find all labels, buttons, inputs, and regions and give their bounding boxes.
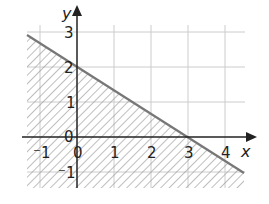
- y-tick-label: ⁻1: [58, 164, 75, 182]
- y-axis-label: y: [61, 4, 72, 23]
- x-tick-label: 1: [110, 144, 120, 162]
- x-axis-arrow-icon: [246, 132, 257, 142]
- x-tick-label: ⁻1: [33, 144, 50, 162]
- inequality-graph: y x ⁻1 0 1 2 3 4 3 2 1 0 ⁻1: [0, 0, 269, 204]
- y-tick-label: 1: [66, 94, 76, 112]
- x-tick-label: 4: [221, 144, 231, 162]
- x-axis-label: x: [240, 142, 251, 161]
- y-tick-label: 2: [64, 59, 74, 77]
- x-tick-label: 0: [73, 144, 83, 162]
- x-tick-label: 3: [184, 144, 194, 162]
- y-axis-arrow-icon: [72, 5, 82, 16]
- y-tick-label: 0: [64, 128, 74, 146]
- x-tick-label: 2: [147, 144, 157, 162]
- y-tick-label: 3: [64, 24, 74, 42]
